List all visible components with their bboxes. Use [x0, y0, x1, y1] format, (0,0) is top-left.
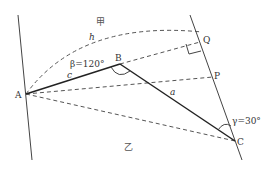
point-p-label: P: [214, 71, 220, 81]
angle-gamma-arc: [218, 124, 231, 130]
left-boundary-line: [18, 15, 32, 160]
point-a-label: A: [14, 90, 22, 100]
dashed-b-to-q: [120, 42, 200, 64]
angle-gamma-label: γ=30°: [232, 116, 261, 126]
side-a-label: a: [170, 87, 175, 97]
angle-beta-label: β=120°: [70, 59, 104, 69]
point-q-label: Q: [203, 35, 210, 45]
dashed-a-to-c: [26, 94, 235, 141]
arc-h-dashed: [26, 30, 202, 94]
region-top-label: 甲: [96, 17, 105, 27]
point-c-label: C: [237, 137, 244, 147]
right-boundary-line: [190, 15, 242, 160]
point-b-label: B: [115, 53, 122, 63]
triangle-diagram: A B C P Q c a h β=120° γ=30° 甲 乙: [0, 0, 268, 171]
height-h-label: h: [89, 32, 95, 42]
side-c-label: c: [67, 70, 72, 80]
region-bottom-label: 乙: [124, 142, 133, 152]
